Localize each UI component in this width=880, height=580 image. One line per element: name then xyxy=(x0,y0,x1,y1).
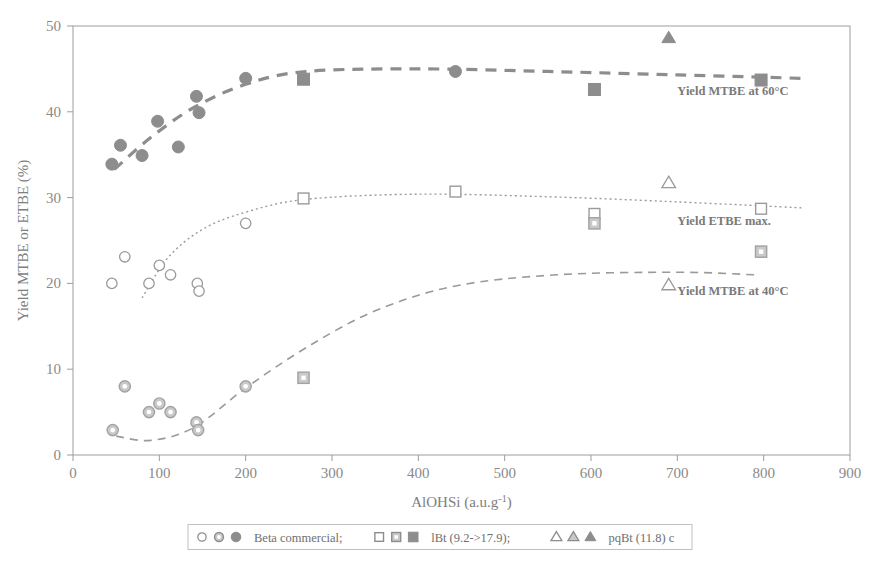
marker-filled-square xyxy=(408,532,418,542)
curve-annotation: Yield MTBE at 60°C xyxy=(677,84,788,98)
y-axis-title-text: Yield MTBE or ETBE (%) xyxy=(15,160,32,322)
legend: Beta commercial;lBt (9.2->17.9);pqBt (11… xyxy=(188,525,692,550)
marker-filled-circle xyxy=(114,139,126,151)
marker-filled-circle xyxy=(152,115,164,127)
x-tick-label: 500 xyxy=(493,465,516,481)
x-tick-label: 100 xyxy=(148,465,171,481)
marker-filled-circle xyxy=(136,150,148,162)
x-tick-label: 900 xyxy=(839,465,862,481)
series-filled-triangle xyxy=(662,31,676,42)
x-tick-label: 300 xyxy=(321,465,344,481)
legend-label: Beta commercial; xyxy=(254,531,343,545)
curve-annotation: Yield MTBE at 40°C xyxy=(677,284,788,298)
marker-halftone-square-core xyxy=(394,535,398,539)
curve-annotations: Yield MTBE at 60°CYield ETBE max.Yield M… xyxy=(677,84,788,299)
marker-filled-circle xyxy=(231,532,241,542)
marker-open-circle xyxy=(154,260,164,270)
marker-halftone-circle-core xyxy=(147,410,152,415)
series-open-circle xyxy=(107,218,251,296)
x-axis: 0100200300400500600700800900 xyxy=(69,455,861,481)
marker-filled-circle xyxy=(172,141,184,153)
marker-filled-square xyxy=(298,73,310,85)
x-tick-label: 700 xyxy=(666,465,689,481)
marker-filled-circle xyxy=(193,107,205,119)
series-filled-circle xyxy=(106,65,462,170)
marker-filled-square xyxy=(588,83,600,95)
series-halftone-square xyxy=(298,218,767,384)
scatter-plot: 010020030040050060070080090001020304050A… xyxy=(0,0,880,580)
series-open-triangle xyxy=(662,278,676,289)
marker-open-circle xyxy=(120,252,130,262)
marker-open-circle xyxy=(198,533,206,541)
marker-filled-circle xyxy=(190,90,202,102)
trend-curve xyxy=(116,272,755,440)
x-tick-label: 400 xyxy=(407,465,430,481)
marker-open-triangle xyxy=(662,278,676,289)
marker-open-square xyxy=(298,193,309,204)
series-halftone-circle xyxy=(107,381,251,436)
marker-halftone-circle-core xyxy=(122,384,127,389)
y-tick-label: 10 xyxy=(46,361,61,377)
marker-halftone-circle-core xyxy=(157,401,162,406)
marker-filled-circle xyxy=(240,72,252,84)
y-tick-label: 30 xyxy=(46,190,61,206)
y-tick-label: 40 xyxy=(46,104,61,120)
marker-open-square xyxy=(756,203,767,214)
marker-open-square xyxy=(375,533,384,542)
legend-label: lBt (9.2->17.9); xyxy=(431,531,510,545)
marker-open-circle xyxy=(240,218,250,228)
marker-open-circle xyxy=(144,278,154,288)
x-tick-label: 800 xyxy=(752,465,775,481)
y-tick-label: 20 xyxy=(46,275,61,291)
y-axis-title: Yield MTBE or ETBE (%) xyxy=(15,160,32,322)
marker-halftone-circle-core xyxy=(110,428,115,433)
marker-halftone-square-core xyxy=(759,249,763,253)
chart-figure: 010020030040050060070080090001020304050A… xyxy=(0,0,880,580)
marker-open-triangle xyxy=(662,176,676,187)
marker-open-circle xyxy=(107,278,117,288)
trend-curves xyxy=(114,69,802,441)
marker-open-square xyxy=(450,186,461,197)
marker-halftone-circle-core xyxy=(168,410,173,415)
x-axis-title-text: AlOHSi (a.u.g-1) xyxy=(411,493,511,511)
x-tick-label: 0 xyxy=(69,465,77,481)
marker-filled-triangle xyxy=(662,31,676,42)
y-tick-label: 0 xyxy=(54,447,62,463)
legend-label: pqBt (11.8) c xyxy=(608,531,674,545)
marker-halftone-circle-core xyxy=(217,535,221,539)
x-tick-label: 200 xyxy=(234,465,257,481)
curve-annotation: Yield ETBE max. xyxy=(677,214,771,228)
marker-halftone-square-core xyxy=(301,376,305,380)
x-axis-title: AlOHSi (a.u.g-1) xyxy=(411,493,511,511)
marker-halftone-circle-core xyxy=(243,384,248,389)
series-open-triangle xyxy=(662,176,676,187)
x-tick-label: 600 xyxy=(580,465,603,481)
marker-filled-circle xyxy=(449,65,461,77)
data-points xyxy=(106,31,767,436)
marker-open-circle xyxy=(165,270,175,280)
marker-halftone-circle-core xyxy=(196,428,201,433)
y-axis: 01020304050 xyxy=(46,18,73,463)
marker-open-circle xyxy=(194,286,204,296)
y-tick-label: 50 xyxy=(46,18,61,34)
marker-filled-circle xyxy=(106,158,118,170)
marker-halftone-square-core xyxy=(592,221,596,225)
